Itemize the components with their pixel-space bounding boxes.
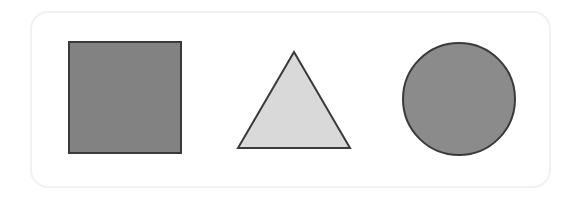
triangle-shape[interactable] bbox=[238, 52, 350, 148]
shape-group bbox=[0, 0, 582, 200]
circle-shape[interactable] bbox=[403, 43, 515, 155]
square-shape[interactable] bbox=[69, 42, 181, 153]
shape-canvas bbox=[0, 0, 582, 200]
